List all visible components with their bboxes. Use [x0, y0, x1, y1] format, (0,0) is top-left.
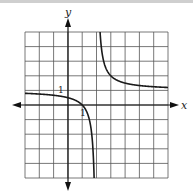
y-tick-label-1: 1	[58, 85, 64, 95]
x-axis-right-arrow-icon	[170, 102, 179, 108]
curve-left-branch	[25, 93, 94, 178]
x-axis-left-arrow-icon	[12, 102, 21, 108]
y-axis-label: y	[64, 6, 72, 19]
x-tick-label-1: 1	[80, 108, 86, 118]
y-axis-down-arrow-icon	[65, 182, 71, 191]
x-axis-label: x	[181, 99, 188, 112]
y-axis-up-arrow-icon	[65, 18, 71, 27]
curve-right-branch	[100, 32, 168, 87]
graph: x y 1 1	[0, 0, 193, 195]
